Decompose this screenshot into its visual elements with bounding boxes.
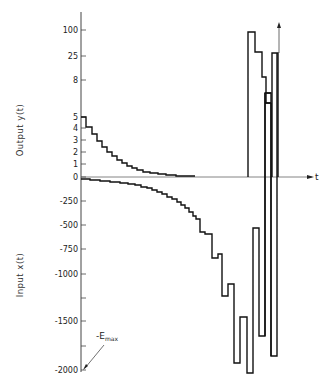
y-axis-label-input: Input x(t) [15,253,25,298]
emax-pointer-line [85,345,104,368]
input-tick-label: -2000 [55,366,78,375]
x-axis-arrow-icon [307,175,314,179]
vertical-arrow-icon [277,22,281,28]
output-tick-label: 5 [73,113,78,122]
output-tick-label: 4 [73,124,78,133]
output-tick-label: 2 [73,148,78,157]
output-tick-label: 1 [73,160,78,169]
input-tick-label: -250 [60,197,78,206]
axes [81,12,314,372]
output-tick-label: 100 [63,26,78,35]
emax-label: -Emax [96,331,118,342]
output-tick-label: 8 [73,76,78,85]
y-axis-label-output: Output y(t) [15,104,25,157]
series-2 [248,32,271,177]
x-axis-label-t: t [315,172,319,182]
input-tick-label: -500 [60,221,78,230]
input-tick-label: -1500 [55,317,78,326]
output-tick-label: 25 [68,52,78,61]
output-tick-label: 3 [73,136,78,145]
input-tick-label: -750 [60,245,78,254]
series-0 [81,117,195,176]
data-series [81,32,278,373]
output-tick-label: 0 [73,173,78,182]
chart: 100258543210-250-500-750-1000-1500-2000 … [0,0,328,390]
emax-annotation: -Emax [83,331,118,370]
input-tick-label: -1000 [55,270,78,279]
